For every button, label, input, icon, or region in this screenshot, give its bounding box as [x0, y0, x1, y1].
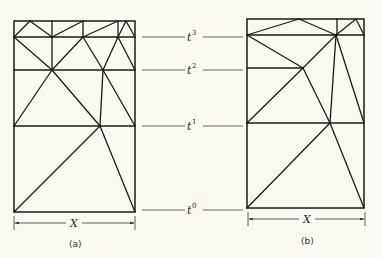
dimension-x-b: X [248, 212, 365, 226]
svg-text:X: X [302, 213, 312, 226]
time-level-t0: t 0 [142, 202, 243, 217]
time-level-t2: t 2 [142, 62, 243, 77]
panel-b-mesh [247, 19, 364, 208]
panel-a-mesh [14, 21, 135, 212]
dimension-x-a: X [14, 216, 135, 230]
caption-a: (a) [69, 239, 82, 249]
svg-text:1: 1 [192, 118, 196, 126]
caption-b: (b) [301, 236, 314, 246]
time-level-t1: t 1 [142, 118, 243, 133]
time-level-t3: t 3 [142, 29, 243, 44]
svg-text:0: 0 [192, 202, 196, 210]
svg-text:3: 3 [192, 29, 196, 37]
svg-text:X: X [69, 217, 79, 230]
space-time-mesh-diagram: t 3 t 2 t 1 t 0 X (a) X (b) [0, 0, 381, 258]
svg-text:2: 2 [192, 62, 196, 70]
